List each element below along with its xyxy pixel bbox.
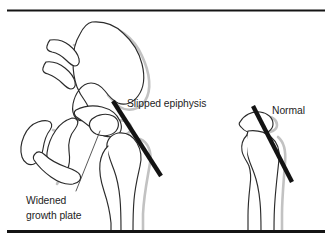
slipped-epiphysis-shape xyxy=(89,114,118,135)
label-slipped-epiphysis: Slipped epiphysis xyxy=(127,98,206,109)
label-widened-growth-plate-line2: growth plate xyxy=(26,210,82,221)
anatomy-illustration: Slipped epiphysis Widened growth plate N… xyxy=(0,0,331,241)
figure-root: Slipped epiphysis Widened growth plate N… xyxy=(0,0,331,241)
label-normal: Normal xyxy=(272,105,305,116)
label-widened-growth-plate-line1: Widened xyxy=(26,195,67,206)
